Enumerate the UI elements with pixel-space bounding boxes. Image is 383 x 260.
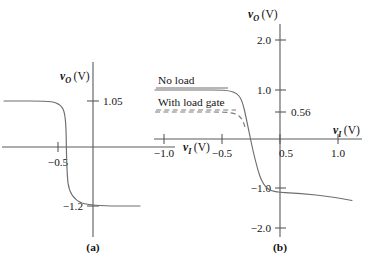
legend-label-no-load: No load bbox=[158, 74, 195, 86]
panel-b-x-tick-label-1-0: 1.0 bbox=[331, 147, 345, 159]
panel-b-x-tick-label-minus-1-0: −1.0 bbox=[154, 147, 175, 159]
panel-a-caption: (a) bbox=[86, 241, 99, 254]
voltage-transfer-characteristic-figure: vO(V) vI(V) 1.05 −1.2 −0.5 (a) bbox=[0, 0, 383, 260]
panel-b-with-load-gate-curve bbox=[155, 112, 245, 127]
panel-b-caption: (b) bbox=[273, 241, 287, 254]
panel-a-x-axis-label: vI(V) bbox=[183, 141, 210, 156]
panel-b-y-axis-label: vO(V) bbox=[248, 8, 278, 23]
panel-b-x-tick-label-minus-0-5: −0.5 bbox=[212, 147, 233, 159]
panel-a: vO(V) vI(V) 1.05 −1.2 −0.5 (a) bbox=[2, 62, 210, 254]
panel-b-y-tick-label-2-0: 2.0 bbox=[257, 34, 271, 46]
legend-label-with-load-gate: With load gate bbox=[158, 96, 225, 108]
panel-b-y-tick-label-minus-1-0: −1.0 bbox=[251, 182, 272, 194]
panel-a-y-tick-label-1-05: 1.05 bbox=[103, 95, 123, 107]
panel-b-y-tick-label-0-56: 0.56 bbox=[291, 106, 311, 118]
panel-b-x-axis-label: vI(V) bbox=[333, 124, 360, 139]
panel-a-x-tick-label-minus-0-5: −0.5 bbox=[48, 156, 69, 168]
panel-b-y-tick-label-1-0: 1.0 bbox=[257, 84, 271, 96]
panel-b-y-tick-label-minus-2-0: −2.0 bbox=[251, 222, 272, 234]
figure-canvas: vO(V) vI(V) 1.05 −1.2 −0.5 (a) bbox=[0, 0, 383, 260]
panel-b: vO(V) vI(V) 2.0 1.0 0.56 −1.0 −2.0 −1.0 … bbox=[154, 8, 362, 254]
panel-a-y-axis-label: vO(V) bbox=[60, 70, 90, 85]
panel-b-x-tick-label-0-5: 0.5 bbox=[279, 147, 293, 159]
panel-a-transfer-curve bbox=[4, 101, 140, 206]
